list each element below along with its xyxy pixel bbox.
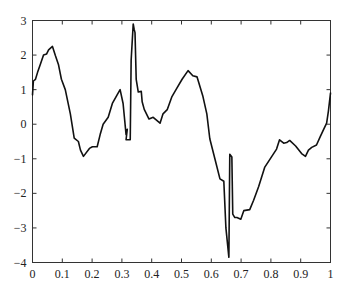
y-tick-label: 3 — [21, 14, 27, 28]
x-tick-label: 0.8 — [263, 267, 278, 281]
x-tick-label: 1 — [328, 267, 334, 281]
y-tick-label: −2 — [14, 186, 27, 200]
x-tick-label: 0.6 — [204, 267, 219, 281]
y-tick-label: −1 — [14, 152, 27, 166]
y-tick-label: 0 — [21, 117, 27, 131]
x-tick-label: 0 — [30, 267, 36, 281]
x-tick-label: 0.2 — [85, 267, 100, 281]
y-tick-label: 1 — [21, 83, 27, 97]
x-tick-label: 0.7 — [234, 267, 249, 281]
x-tick-label: 0.3 — [114, 267, 129, 281]
y-axis-labels: 3210−1−2−3−4 — [14, 14, 27, 270]
x-tick-label: 0.4 — [144, 267, 159, 281]
y-tick-label: −4 — [14, 256, 27, 270]
line-chart: 00.10.20.30.40.50.60.70.80.91 3210−1−2−3… — [0, 0, 344, 289]
x-tick-label: 0.9 — [293, 267, 308, 281]
x-tick-label: 0.1 — [55, 267, 70, 281]
x-axis-labels: 00.10.20.30.40.50.60.70.80.91 — [30, 267, 334, 281]
y-tick-label: −3 — [14, 221, 27, 235]
y-tick-label: 2 — [21, 48, 27, 62]
data-line — [33, 24, 331, 257]
x-tick-label: 0.5 — [174, 267, 189, 281]
